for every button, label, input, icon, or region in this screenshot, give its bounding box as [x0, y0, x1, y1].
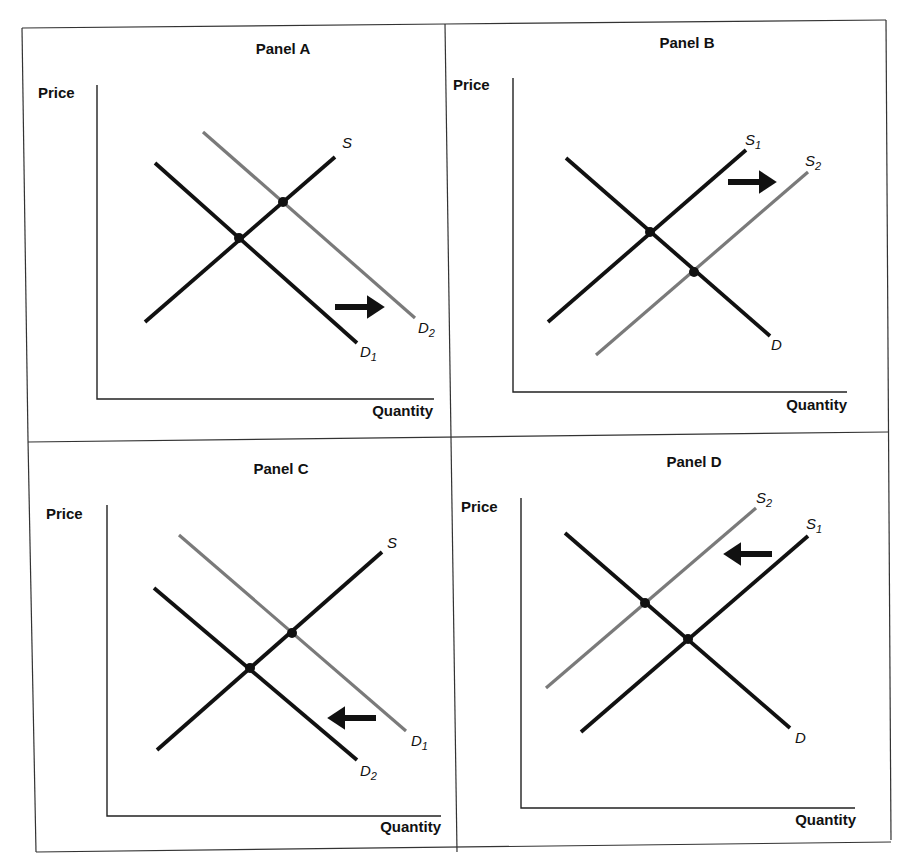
- x-axis-label: Quantity: [380, 818, 441, 835]
- panel-a: Panel APriceQuantityD1D2S: [38, 40, 435, 419]
- panel-c: Panel CPriceQuantityD1D2S: [46, 460, 442, 835]
- equilibrium-point: [689, 267, 699, 277]
- equilibrium-point: [278, 197, 288, 207]
- axes: [97, 85, 434, 399]
- equilibrium-point: [245, 663, 255, 673]
- supply-curve-s2: [546, 508, 756, 688]
- y-axis-label: Price: [461, 498, 498, 515]
- x-axis-label: Quantity: [786, 396, 847, 413]
- supply-curve-s2: [596, 172, 808, 355]
- curve-label-d1: D1: [411, 732, 428, 752]
- demand-curve-d: [565, 533, 790, 728]
- x-axis-label: Quantity: [372, 402, 433, 419]
- equilibrium-point: [683, 634, 693, 644]
- curve-label-s2: S2: [805, 152, 821, 172]
- panel-d: Panel DPriceQuantityDS1S2: [461, 453, 857, 828]
- demand-curve-d1: [155, 163, 357, 343]
- equilibrium-point: [645, 227, 655, 237]
- curve-label-d1: D1: [360, 343, 377, 363]
- demand-curve-d2: [154, 588, 357, 760]
- axes: [513, 78, 847, 392]
- axes: [521, 498, 855, 808]
- supply-demand-figure: Panel APriceQuantityD1D2SPanel BPriceQua…: [0, 0, 900, 859]
- curve-label-s1: S1: [806, 515, 822, 535]
- y-axis-label: Price: [46, 505, 83, 522]
- demand-curve-d2: [203, 132, 415, 318]
- equilibrium-point: [640, 598, 650, 608]
- equilibrium-point: [234, 233, 244, 243]
- curve-label-s: S: [342, 134, 352, 151]
- panel-title: Panel A: [256, 40, 311, 57]
- curve-label-d2: D2: [418, 319, 435, 339]
- curve-label-d: D: [795, 729, 806, 746]
- curve-label-d: D: [771, 336, 782, 353]
- curve-label-s: S: [387, 534, 397, 551]
- equilibrium-point: [287, 628, 297, 638]
- curve-label-s2: S2: [756, 489, 772, 509]
- panel-title: Panel D: [666, 453, 721, 470]
- panel-b: Panel BPriceQuantityDS1S2: [453, 34, 848, 413]
- supply-curve-s1: [581, 536, 808, 732]
- y-axis-label: Price: [453, 76, 490, 93]
- y-axis-label: Price: [38, 84, 75, 101]
- curve-label-d2: D2: [360, 762, 377, 782]
- x-axis-label: Quantity: [795, 811, 856, 828]
- panel-title: Panel B: [659, 34, 714, 51]
- axes: [107, 505, 441, 816]
- curve-label-s1: S1: [745, 131, 761, 151]
- panel-title: Panel C: [253, 460, 308, 477]
